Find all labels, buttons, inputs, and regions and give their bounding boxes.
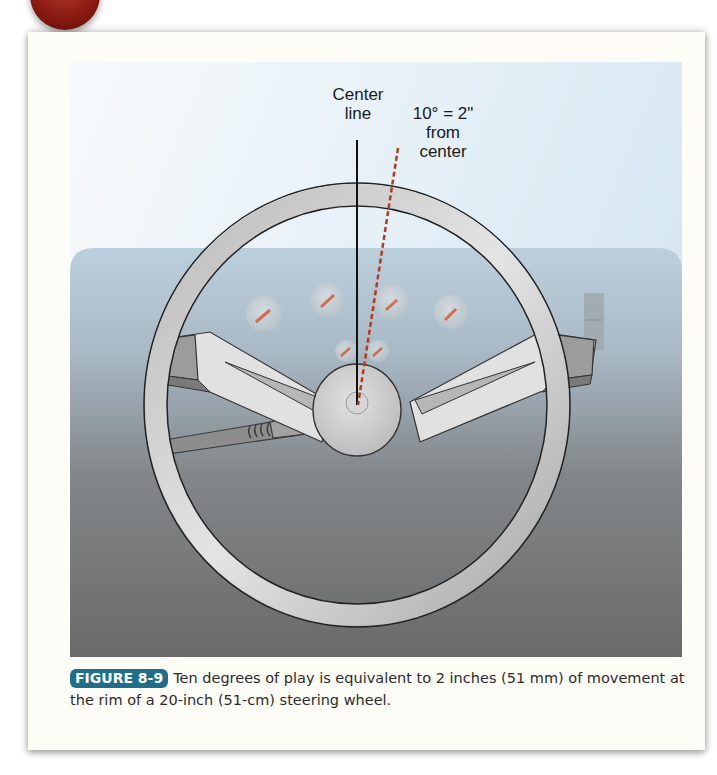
center-line-label-1: Center bbox=[318, 85, 398, 104]
play-label-2: from bbox=[398, 123, 488, 142]
figure-number-badge: FIGURE 8-9 bbox=[70, 669, 168, 688]
play-label: 10° = 2" from center bbox=[398, 104, 488, 161]
play-label-3: center bbox=[398, 142, 488, 161]
figure-caption: FIGURE 8-9Ten degrees of play is equival… bbox=[70, 667, 690, 711]
center-line-label: Center line bbox=[318, 85, 398, 123]
steering-wheel-illustration bbox=[70, 62, 682, 657]
chapter-marker-circle bbox=[30, 0, 100, 30]
play-label-1: 10° = 2" bbox=[398, 104, 488, 123]
center-line-label-2: line bbox=[318, 104, 398, 123]
